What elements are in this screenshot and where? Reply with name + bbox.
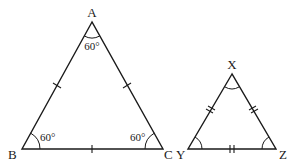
angle-a-arc: [84, 36, 99, 38]
triangle-xyz-outline: [188, 74, 276, 149]
angle-c-label: 60°: [130, 131, 145, 143]
triangle-xyz: X Y Z: [176, 57, 287, 162]
geometry-diagram: A B C 60° 60° 60° X Y Z: [0, 0, 297, 168]
angle-b-arc: [31, 133, 40, 149]
angle-x-arc: [225, 87, 239, 89]
vertex-a-label: A: [87, 5, 97, 20]
side-ab-tick: [53, 83, 61, 88]
vertex-z-label: Z: [279, 147, 287, 162]
vertex-y-label: Y: [176, 147, 186, 162]
angle-c-arc: [145, 133, 154, 149]
angle-b-label: 60°: [40, 131, 55, 143]
triangle-abc: A B C 60° 60° 60°: [8, 5, 173, 162]
angle-y-arc: [195, 137, 202, 149]
angle-z-arc: [262, 137, 269, 149]
vertex-c-label: C: [164, 147, 173, 162]
vertex-b-label: B: [8, 147, 17, 162]
vertex-x-label: X: [227, 57, 237, 72]
angle-a-label: 60°: [84, 40, 99, 52]
